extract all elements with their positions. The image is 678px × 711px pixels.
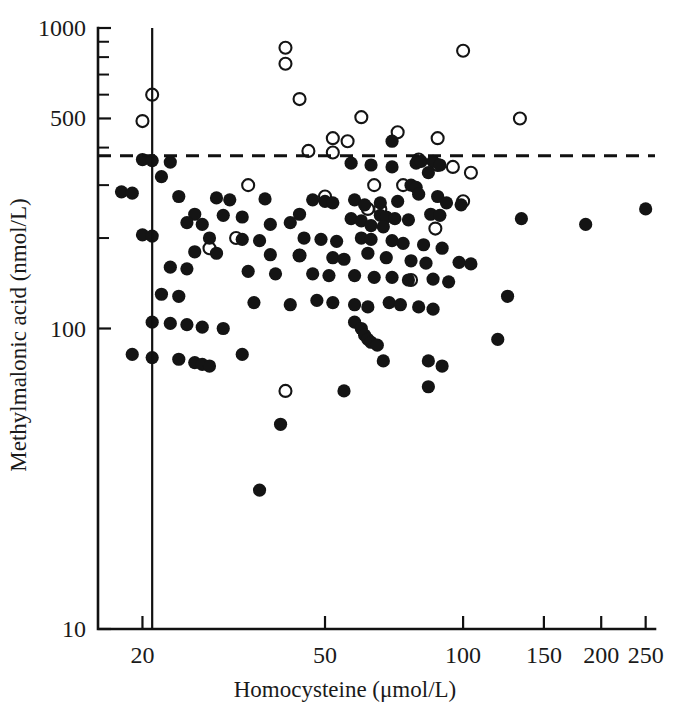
data-point-filled — [164, 155, 177, 168]
data-point-open — [514, 112, 526, 124]
data-point-filled — [385, 135, 398, 148]
data-point-filled — [326, 251, 339, 264]
data-point-filled — [236, 233, 249, 246]
data-point-filled — [314, 233, 327, 246]
data-point-open — [279, 385, 291, 397]
data-point-filled — [196, 321, 209, 334]
y-tick-label: 500 — [50, 105, 86, 131]
data-point-filled — [491, 333, 504, 346]
data-point-filled — [284, 216, 297, 229]
data-point-filled — [515, 212, 528, 225]
data-point-filled — [452, 256, 465, 269]
data-point-filled — [196, 218, 209, 231]
x-tick-label: 150 — [526, 642, 562, 668]
data-point-filled — [310, 294, 323, 307]
data-point-open — [327, 132, 339, 144]
data-point-open — [342, 135, 354, 147]
data-point-filled — [361, 300, 374, 313]
data-point-open — [447, 161, 459, 173]
x-axis-label: Homocysteine (μmol/L) — [234, 677, 456, 702]
data-point-filled — [364, 158, 377, 171]
data-point-filled — [236, 348, 249, 361]
data-point-filled — [397, 237, 410, 250]
data-point-filled — [358, 198, 371, 211]
data-point-filled — [247, 296, 260, 309]
data-point-filled — [155, 288, 168, 301]
data-point-filled — [253, 483, 266, 496]
data-point-filled — [377, 220, 390, 233]
data-point-open — [432, 132, 444, 144]
data-point-open — [465, 167, 477, 179]
data-point-filled — [326, 296, 339, 309]
data-point-filled — [361, 247, 374, 260]
data-point-filled — [274, 418, 287, 431]
data-point-filled — [180, 262, 193, 275]
data-point-filled — [364, 233, 377, 246]
data-point-filled — [284, 298, 297, 311]
data-point-open — [242, 179, 254, 191]
y-tick-label: 100 — [50, 316, 86, 342]
data-point-filled — [322, 269, 335, 282]
data-point-filled — [236, 210, 249, 223]
data-point-filled — [348, 269, 361, 282]
data-point-filled — [293, 249, 306, 262]
data-point-filled — [391, 195, 404, 208]
data-point-filled — [172, 290, 185, 303]
data-point-open — [457, 45, 469, 57]
data-point-filled — [385, 234, 398, 247]
data-point-filled — [433, 158, 446, 171]
data-point-filled — [380, 251, 393, 264]
data-point-filled — [203, 359, 216, 372]
data-point-filled — [264, 248, 277, 261]
data-point-filled — [242, 265, 255, 278]
data-point-filled — [394, 298, 407, 311]
data-point-filled — [217, 322, 230, 335]
data-point-filled — [188, 245, 201, 258]
data-point-filled — [440, 196, 453, 209]
data-point-filled — [306, 267, 319, 280]
x-tick-label: 20 — [130, 642, 154, 668]
data-point-filled — [426, 273, 439, 286]
data-point-filled — [203, 231, 216, 244]
data-point-filled — [364, 219, 377, 232]
axis-spine — [98, 28, 655, 629]
data-point-filled — [455, 198, 468, 211]
data-point-filled — [464, 257, 477, 270]
data-point-filled — [579, 218, 592, 231]
data-point-filled — [433, 209, 446, 222]
data-point-filled — [385, 271, 398, 284]
data-point-filled — [126, 348, 139, 361]
data-point-filled — [330, 235, 343, 248]
data-point-filled — [210, 247, 223, 260]
data-point-filled — [223, 193, 236, 206]
x-tick-label: 50 — [313, 642, 337, 668]
y-tick-label: 1000 — [38, 15, 86, 41]
data-point-filled — [402, 213, 415, 226]
data-point-filled — [422, 380, 435, 393]
data-point-open — [368, 179, 380, 191]
x-tick-label: 250 — [628, 642, 664, 668]
data-point-filled — [297, 231, 310, 244]
data-points-layer — [115, 42, 652, 497]
x-tick-label: 200 — [583, 642, 619, 668]
data-point-filled — [442, 275, 455, 288]
data-point-filled — [172, 353, 185, 366]
data-point-filled — [337, 384, 350, 397]
data-point-filled — [422, 354, 435, 367]
plot-canvas: 1010050010002050100150200250 Methylmalon… — [0, 0, 678, 711]
data-point-filled — [422, 166, 435, 179]
data-point-filled — [412, 188, 425, 201]
data-point-filled — [126, 187, 139, 200]
reference-lines-layer — [98, 28, 655, 629]
data-point-filled — [172, 190, 185, 203]
data-point-open — [355, 111, 367, 123]
data-point-filled — [164, 317, 177, 330]
tick-labels-layer: 1010050010002050100150200250 — [38, 15, 664, 668]
data-point-filled — [388, 212, 401, 225]
y-tick-label: 10 — [62, 616, 86, 642]
data-point-open — [294, 93, 306, 105]
data-point-filled — [348, 298, 361, 311]
data-point-filled — [371, 339, 384, 352]
axes-layer — [98, 28, 655, 629]
data-point-filled — [210, 191, 223, 204]
